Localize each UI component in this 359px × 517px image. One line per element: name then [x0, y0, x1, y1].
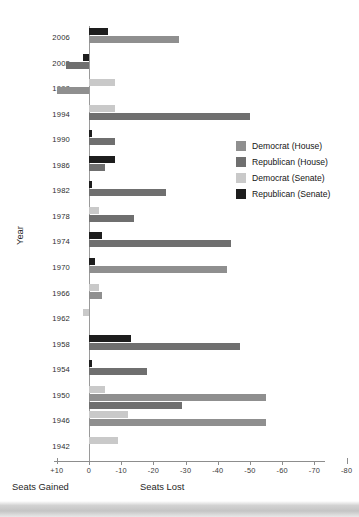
x-tick-label--70: -70 [297, 466, 331, 475]
bar-1946-democrat-senate [89, 411, 128, 418]
legend-label: Democrat (House) [252, 141, 322, 151]
x-tick-label--10: -10 [104, 466, 138, 475]
x-tick-label--20: -20 [136, 466, 170, 475]
x-tick-label-+10: +10 [40, 466, 74, 475]
seats-change-bar-chart: +100-10-20-30-40-50-60-70-80 20062002199… [0, 0, 359, 517]
legend-item[interactable]: Democrat (House) [236, 139, 356, 152]
bar-row: 1966 [0, 284, 359, 310]
bar-1950-democrat-house [89, 394, 266, 401]
bar-row: 1994 [0, 105, 359, 131]
bar-1974-republican-house [89, 240, 231, 247]
legend-label: Republican (Senate) [252, 189, 330, 199]
year-label: 1994 [36, 110, 70, 119]
y-axis-title: Year [14, 206, 25, 266]
year-label: 1946 [36, 416, 70, 425]
bar-row: 2002 [0, 54, 359, 80]
bar-row: 1946 [0, 411, 359, 437]
year-label: 1990 [36, 135, 70, 144]
bar-1970-republican-senate [89, 258, 95, 265]
year-label: 1970 [36, 263, 70, 272]
x-axis-caption-right: Seats Lost [140, 481, 184, 492]
bar-1990-republican-senate [89, 130, 92, 137]
year-label: 1986 [36, 161, 70, 170]
legend-item[interactable]: Democrat (Senate) [236, 171, 356, 184]
legend-label: Democrat (Senate) [252, 173, 325, 183]
bar-1970-democrat-house [89, 266, 227, 273]
bar-2006-republican-senate [89, 28, 108, 35]
bar-row: 1978 [0, 207, 359, 233]
bar-1966-democrat-senate [89, 284, 99, 291]
bar-1966-democrat-house [89, 292, 102, 299]
page-edge-artifact [0, 501, 359, 517]
bar-1986-republican-senate [89, 156, 115, 163]
year-label: 1954 [36, 365, 70, 374]
bar-1942-democrat-senate [89, 437, 118, 444]
bar-row: 1942 [0, 437, 359, 463]
bar-1986-republican-house [89, 164, 105, 171]
year-label: 1978 [36, 212, 70, 221]
bar-row: 1958 [0, 335, 359, 361]
bar-1954-republican-senate [89, 360, 92, 367]
year-label: 1958 [36, 340, 70, 349]
bar-1974-republican-senate [89, 232, 102, 239]
legend-label: Republican (House) [252, 157, 328, 167]
bar-2002-republican-house [66, 62, 89, 69]
bar-row: 1974 [0, 232, 359, 258]
legend-swatch-icon [236, 189, 246, 199]
bar-1998-democrat-senate [89, 79, 115, 86]
year-label: 2002 [36, 59, 70, 68]
bar-1950-democrat-senate [89, 386, 105, 393]
x-tick-label--60: -60 [265, 466, 299, 475]
legend-item[interactable]: Republican (Senate) [236, 188, 356, 201]
bar-row: 1954 [0, 360, 359, 386]
x-tick-label--40: -40 [201, 466, 235, 475]
bar-row: 2006 [0, 28, 359, 54]
year-label: 2006 [36, 33, 70, 42]
x-axis-caption-left: Seats Gained [12, 481, 69, 492]
year-label: 1950 [36, 391, 70, 400]
x-tick-label--80: -80 [330, 466, 359, 475]
year-label: 1966 [36, 289, 70, 298]
bar-1982-republican-senate [89, 181, 92, 188]
x-tick-label-0: 0 [72, 466, 106, 475]
bar-1962-democrat-senate [83, 309, 89, 316]
x-tick-label--30: -30 [169, 466, 203, 475]
bar-1982-republican-house [89, 189, 166, 196]
legend-swatch-icon [236, 173, 246, 183]
bar-1958-republican-house [89, 343, 240, 350]
plot-area: +100-10-20-30-40-50-60-70-80 20062002199… [0, 0, 359, 517]
bar-1950-republican-house [89, 402, 182, 409]
bar-row: 1962 [0, 309, 359, 335]
bar-2006-democrat-house [89, 36, 179, 43]
legend-swatch-icon [236, 141, 246, 151]
bar-1946-democrat-house [89, 419, 266, 426]
bar-1978-republican-house [89, 215, 134, 222]
legend-swatch-icon [236, 157, 246, 167]
bar-row: 1950 [0, 386, 359, 412]
bar-1958-republican-senate [89, 335, 131, 342]
bar-row: 1998 [0, 79, 359, 105]
year-label: 1962 [36, 314, 70, 323]
x-tick-label--50: -50 [233, 466, 267, 475]
bar-1954-republican-house [89, 368, 147, 375]
bar-row: 1970 [0, 258, 359, 284]
bar-1998-democrat-house [57, 87, 89, 94]
year-label: 1982 [36, 186, 70, 195]
chart-legend: Democrat (House)Republican (House)Democr… [236, 139, 356, 204]
bar-1994-democrat-senate [89, 105, 115, 112]
bar-1978-democrat-senate [89, 207, 99, 214]
bar-1994-republican-house [89, 113, 250, 120]
legend-item[interactable]: Republican (House) [236, 155, 356, 168]
year-label: 1974 [36, 237, 70, 246]
bar-2002-republican-senate [83, 54, 89, 61]
bar-1990-republican-house [89, 138, 115, 145]
year-label: 1942 [36, 442, 70, 451]
